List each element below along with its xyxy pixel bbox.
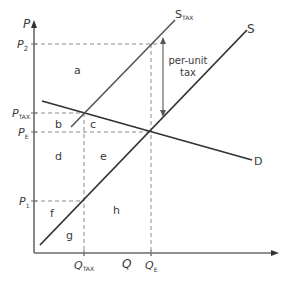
y-axis-arrow-icon: [31, 20, 37, 28]
pe-label: PE: [18, 126, 29, 140]
y-axis-label: P: [23, 17, 31, 31]
region-h: h: [113, 204, 120, 217]
tax-diagram: P Q P2 PTAX PE P1 QTAX QE S STAX D per-u…: [0, 0, 289, 285]
demand-label: D: [254, 155, 262, 168]
x-axis-title: Q: [122, 257, 131, 271]
region-a: a: [74, 64, 81, 77]
region-c: c: [90, 118, 96, 131]
supply-curve: [40, 30, 247, 245]
per-unit-tax-label-line2: tax: [180, 67, 196, 78]
per-unit-tax-label-line1: per-unit: [169, 55, 208, 66]
region-f: f: [50, 207, 55, 220]
per-unit-tax-arrow: [160, 37, 166, 117]
region-g: g: [66, 229, 73, 242]
region-b: b: [55, 118, 62, 131]
demand-curve: [42, 101, 252, 160]
region-d: d: [55, 150, 62, 163]
p2-label: P2: [17, 38, 28, 53]
region-e: e: [100, 150, 107, 163]
x-axis-arrow-icon: [271, 250, 279, 256]
guide-lines: [34, 44, 160, 256]
supply-tax-label: STAX: [175, 8, 193, 21]
arrow-up-icon: [160, 37, 166, 44]
supply-tax-curve: [71, 20, 175, 127]
p1-label: P1: [19, 195, 30, 209]
supply-label: S: [247, 22, 255, 36]
qtax-label: QTAX: [74, 259, 94, 272]
axes: [31, 20, 279, 256]
qe-label: QE: [145, 259, 158, 273]
ptax-label: PTAX: [12, 107, 30, 120]
